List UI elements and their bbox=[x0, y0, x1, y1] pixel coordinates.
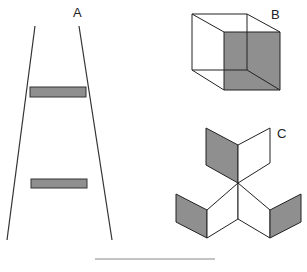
caption bbox=[95, 262, 215, 272]
upper-bar bbox=[30, 87, 86, 97]
shaded-face bbox=[224, 32, 280, 90]
label-a: A bbox=[73, 5, 82, 20]
rhombus-group bbox=[176, 128, 301, 238]
left-shaded-rhombus bbox=[176, 194, 207, 238]
illusion-figure: A B C bbox=[0, 0, 307, 272]
left-white-rhombus bbox=[207, 183, 238, 238]
panel-b: B bbox=[192, 7, 280, 90]
right-converging-line bbox=[79, 26, 112, 240]
right-shaded-rhombus bbox=[270, 194, 301, 238]
right-white-rhombus bbox=[238, 183, 270, 238]
top-right-white-rhombus bbox=[238, 128, 270, 183]
lower-bar bbox=[31, 179, 87, 188]
label-c: C bbox=[277, 126, 286, 141]
panel-a: A bbox=[7, 5, 112, 240]
label-b: B bbox=[271, 7, 280, 22]
left-converging-line bbox=[7, 26, 35, 240]
top-left-shaded-rhombus bbox=[206, 128, 238, 183]
panel-c: C bbox=[176, 126, 301, 238]
